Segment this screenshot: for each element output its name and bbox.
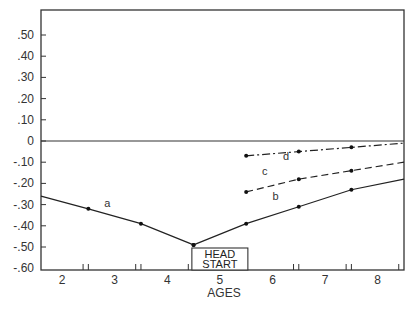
series-c-line [246, 162, 404, 192]
x-tick-label: 2 [59, 273, 66, 287]
data-point [139, 222, 143, 226]
y-tick-label: -.50 [13, 240, 34, 254]
series-d-line [246, 143, 404, 156]
data-series: abcd [41, 143, 404, 247]
x-tick-label: 7 [322, 273, 329, 287]
data-point [86, 207, 90, 211]
head-start-line2: START [202, 258, 237, 270]
x-axis-title: AGES [207, 286, 240, 300]
data-point [297, 150, 301, 154]
y-tick-label: .40 [17, 49, 34, 63]
series-b-label: b [272, 190, 278, 202]
x-tick-label: 8 [374, 273, 381, 287]
data-point [349, 169, 353, 173]
y-tick-label: .20 [17, 92, 34, 106]
series-d-label: d [283, 150, 289, 162]
data-point [349, 188, 353, 192]
x-tick-label: 5 [217, 273, 224, 287]
series-a-label: a [104, 197, 111, 209]
x-tick-label: 3 [111, 273, 118, 287]
data-point [244, 154, 248, 158]
plot-frame [41, 10, 404, 270]
y-tick-label: -.40 [13, 219, 34, 233]
x-tick-label: 6 [269, 273, 276, 287]
data-point [349, 145, 353, 149]
series-c-label: c [262, 165, 268, 177]
series-a-line [41, 196, 194, 245]
data-point [244, 190, 248, 194]
series-b-line [194, 179, 404, 245]
plot-border [41, 10, 404, 270]
y-tick-label: .30 [17, 70, 34, 84]
data-point [244, 222, 248, 226]
y-tick-label: -.60 [13, 261, 34, 275]
y-tick-label: .50 [17, 28, 34, 42]
x-tick-label: 4 [164, 273, 171, 287]
y-tick-label: 0 [27, 134, 34, 148]
data-point [192, 243, 196, 247]
line-chart: .50.40.30.20.100-.10-.20-.30-.40-.50-.60… [0, 0, 414, 309]
y-tick-label: .10 [17, 113, 34, 127]
y-tick-label: -.20 [13, 176, 34, 190]
y-tick-label: -.10 [13, 155, 34, 169]
data-point [297, 205, 301, 209]
head-start-annotation: HEADSTART [192, 248, 248, 270]
data-point [297, 177, 301, 181]
y-tick-label: -.30 [13, 198, 34, 212]
